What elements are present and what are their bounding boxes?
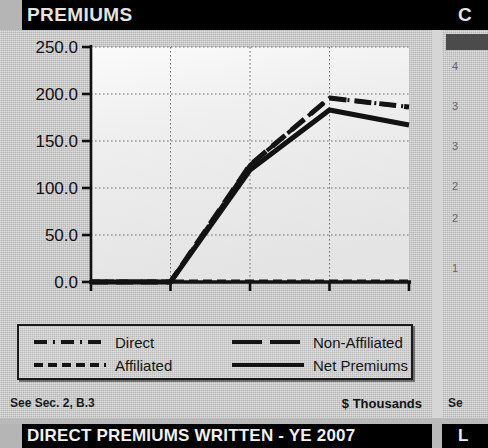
x-tick-label: 2007 [381,294,428,296]
footer-reference: See Sec. 2, B.3 [10,396,95,410]
panel-footer: See Sec. 2, B.3 $ Thousands [0,396,432,418]
adjacent-panel-header: C [432,0,488,30]
chart-legend: Direct Affiliated Non-Affiliated [17,324,413,380]
y-tick-label: 2 [452,180,458,192]
x-tick-label: 2005 [229,294,276,296]
adjacent-bottom-bar-title: L [458,426,468,446]
panel-header: PREMIUMS [0,0,432,30]
chart-svg: 250.0 200.0 150.0 100.0 50.0 0.0 200 [0,34,432,296]
report-page: PREMIUMS [0,0,488,448]
adjacent-panel-subheader [446,34,488,50]
y-tick-label: 200.0 [35,85,78,104]
header-left-notch [0,0,22,30]
y-tick-label: 3 [452,100,458,112]
adjacent-panel-title: C [458,4,472,26]
y-tick-label: 100.0 [35,179,78,198]
x-tick-label: 2003 [71,294,118,296]
legend-item-non-affiliated: Non-Affiliated [231,332,403,352]
legend-label-non-affiliated: Non-Affiliated [313,335,403,350]
bottom-bar-left-notch [0,424,22,448]
panel-gutter [432,30,442,418]
legend-label-affiliated: Affiliated [115,358,172,373]
legend-swatch-non-affiliated [231,335,305,349]
y-tick-label: 50.0 [45,226,78,245]
footer-units: $ Thousands [342,396,422,411]
y-tick-label: 3 [452,140,458,152]
y-tick-label: 0.0 [54,273,78,292]
legend-item-direct: Direct [33,332,154,352]
y-axis-ticks [82,47,91,282]
y-tick-label: 150.0 [35,132,78,151]
next-section-header: DIRECT PREMIUMS WRITTEN - YE 2007 [0,424,432,448]
premiums-panel: PREMIUMS [0,0,432,448]
legend-item-net-premiums: Net Premiums [231,355,408,375]
x-axis-labels: 2003 2005 2007 [71,294,428,296]
legend-swatch-net-premiums [231,358,305,372]
legend-label-net-premiums: Net Premiums [313,358,408,373]
legend-label-direct: Direct [115,335,154,350]
legend-swatch-affiliated [33,358,107,372]
y-tick-label: 4 [452,60,458,72]
legend-item-affiliated: Affiliated [33,355,172,375]
y-tick-label: 1 [452,262,458,274]
legend-swatch-direct [33,335,107,349]
next-section-title: DIRECT PREMIUMS WRITTEN - YE 2007 [27,426,355,446]
adjacent-bottom-bar: L [442,424,488,448]
adjacent-panel-footer: Se [448,396,463,410]
adjacent-panel-cropped: 4 3 3 2 2 1 C Se L [432,0,488,448]
y-tick-label: 2 [452,212,458,224]
y-tick-label: 250.0 [35,38,78,57]
premiums-line-chart: 250.0 200.0 150.0 100.0 50.0 0.0 200 [0,34,432,296]
y-axis-labels: 250.0 200.0 150.0 100.0 50.0 0.0 [35,38,78,292]
page-title: PREMIUMS [27,4,133,26]
adjacent-panel-axis-labels: 4 3 3 2 2 1 [442,52,488,302]
